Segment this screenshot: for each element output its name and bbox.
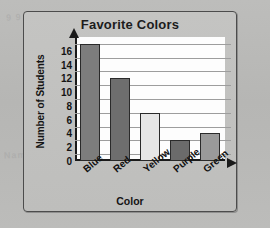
y-tick-label: 4: [50, 128, 72, 139]
bar-red: [110, 78, 131, 161]
y-tick-label: 14: [50, 59, 72, 70]
chart-frame: Favorite Colors Number of Students Color…: [23, 11, 237, 212]
y-tick-label: 2: [50, 142, 72, 153]
y-axis-title: Number of Students: [35, 47, 46, 157]
y-tick-label: 8: [50, 100, 72, 111]
y-axis-arrow-icon: [69, 28, 79, 38]
y-tick-label: 10: [50, 87, 72, 98]
x-axis-title: Color: [24, 195, 236, 207]
page-background: 9 9 1 Name Favorite Colors Number of Stu…: [0, 0, 270, 228]
y-tick-label: 12: [50, 73, 72, 84]
x-axis-arrow-icon: [227, 158, 237, 168]
y-tick-label: 16: [50, 45, 72, 56]
y-tick-label: 0: [50, 156, 72, 167]
y-tick-label: 6: [50, 114, 72, 125]
chart-title: Favorite Colors: [24, 17, 236, 32]
plot-area: 0246810121416 BlueRedYellowPurpleGreen: [75, 37, 225, 161]
bar-blue: [80, 44, 101, 161]
